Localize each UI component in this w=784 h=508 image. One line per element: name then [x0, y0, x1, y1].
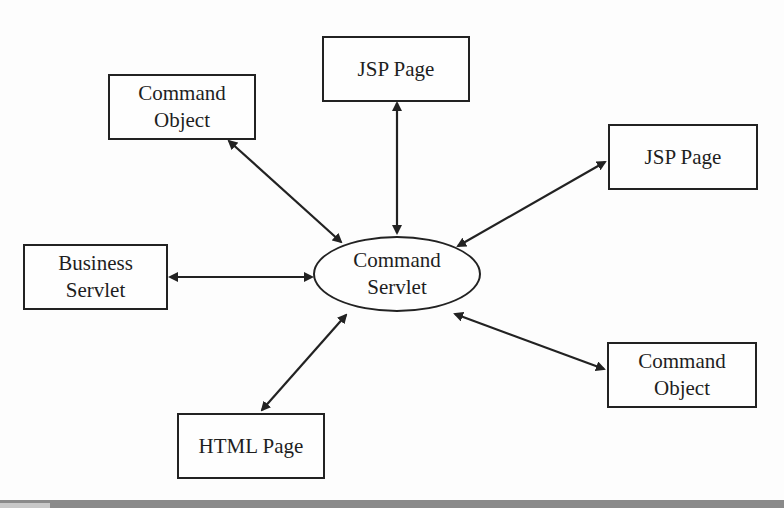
node-command-servlet: Command Servlet — [313, 236, 481, 312]
node-label-line1: JSP Page — [358, 56, 435, 83]
node-command-object-bottom: Command Object — [607, 342, 757, 408]
arrow-jsp-page-right — [458, 162, 605, 246]
node-business-servlet: Business Servlet — [23, 244, 168, 310]
node-label-line2: Servlet — [66, 277, 125, 304]
arrow-command-object-top — [229, 141, 341, 242]
node-label-line1: Command — [638, 348, 726, 375]
node-html-page: HTML Page — [177, 413, 325, 479]
node-jsp-page-top: JSP Page — [322, 36, 470, 102]
arrow-command-object-bottom — [455, 314, 604, 369]
bottom-rule-tab — [0, 503, 50, 508]
node-label-line1: Business — [58, 250, 133, 277]
node-label-line2: Object — [154, 107, 210, 134]
node-label-line1: Command — [138, 80, 226, 107]
node-label-line1: HTML Page — [199, 433, 304, 460]
center-label-line2: Servlet — [367, 274, 426, 301]
node-command-object-top: Command Object — [108, 74, 256, 140]
center-label-line1: Command — [353, 247, 441, 274]
node-label-line1: JSP Page — [645, 144, 722, 171]
node-label-line2: Object — [654, 375, 710, 402]
servlet-architecture-diagram: Command Object JSP Page JSP Page Busines… — [0, 0, 784, 508]
arrow-html-page — [262, 315, 346, 410]
node-jsp-page-right: JSP Page — [608, 124, 758, 190]
page-bottom-rule — [0, 500, 784, 508]
